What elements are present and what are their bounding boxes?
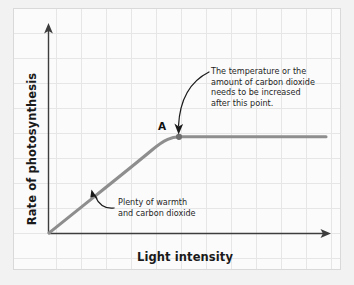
x-axis-label: Light intensity xyxy=(100,250,270,264)
x-axis xyxy=(49,229,332,238)
y-axis xyxy=(44,23,53,234)
annotation-plateau-text: The temperature or the amount of carbon … xyxy=(211,66,339,108)
point-a-marker xyxy=(176,134,182,140)
chart-figure: Rate of photosynthesis Light intensity A… xyxy=(0,0,354,285)
point-a-label: A xyxy=(158,120,166,132)
data-curve xyxy=(49,137,326,233)
annotation-arrow-top xyxy=(174,72,209,135)
annotation-linear-phase-text: Plenty of warmth and carbon dioxide xyxy=(118,197,238,218)
plot-area xyxy=(0,0,354,285)
y-axis-label: Rate of photosynthesis xyxy=(25,54,39,244)
